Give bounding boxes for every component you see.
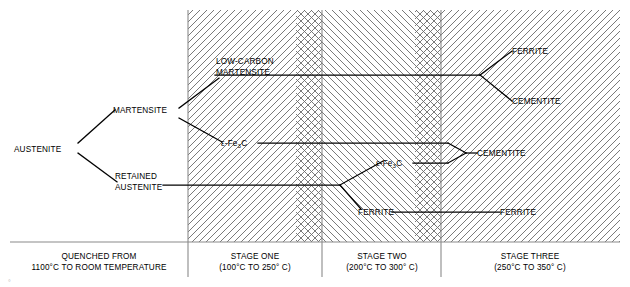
stage-one-two-overlap-hatch — [296, 10, 322, 242]
caption-stage-three-line1: STAGE THREE — [501, 252, 560, 261]
caption-stage-three-line2: (250°C TO 350° C) — [494, 263, 566, 272]
label-low-carbon-martensite-line1: LOW-CARBON — [216, 57, 274, 66]
label-retained-austenite-line1: RETAINED — [115, 172, 157, 181]
epsilon-carbide-prefix-2: ε-Fe — [376, 159, 393, 168]
label-retained-austenite-line2: AUSTENITE — [115, 183, 163, 192]
label-cementite-stage-three-mid: CEMENTITE — [477, 149, 526, 158]
label-ferrite-stage-two: FERRITE — [358, 208, 394, 217]
label-low-carbon-martensite-line2: MARTENSITE — [216, 68, 271, 77]
epsilon-carbide-prefix-1: ε-Fe — [221, 139, 238, 148]
caption-quenched-line1: QUENCHED FROM — [61, 252, 136, 261]
caption-stage-one-line2: (100°C TO 250° C) — [219, 263, 291, 272]
label-austenite: AUSTENITE — [14, 145, 62, 154]
label-cementite-stage-three-upper: CEMENTITE — [512, 97, 561, 106]
stage-two-three-overlap-hatch — [415, 10, 441, 242]
caption-quenched-line2: 1100°C TO ROOM TEMPERATURE — [31, 263, 167, 272]
caption-stage-two-line2: (200°C TO 300° C) — [346, 263, 418, 272]
label-ferrite-stage-three-upper: FERRITE — [512, 47, 548, 56]
stage-one-hatch — [188, 10, 296, 242]
caption-stage-two-line1: STAGE TWO — [357, 252, 407, 261]
hatched-stage-field — [188, 10, 620, 242]
caption-stage-one-line1: STAGE ONE — [231, 252, 280, 261]
connector-austenite-retained-austenite — [78, 153, 117, 182]
svg-text:ε-Fe3C: ε-Fe3C — [221, 139, 247, 149]
tempering-stages-diagram: AUSTENITE MARTENSITE RETAINED AUSTENITE … — [0, 0, 630, 287]
label-epsilon-carbide-stage-one: ε-Fe3C — [221, 139, 247, 149]
connector-austenite-martensite — [78, 110, 115, 143]
stage-caption-group: QUENCHED FROM 1100°C TO ROOM TEMPERATURE… — [31, 252, 566, 272]
epsilon-carbide-carbon-1: C — [241, 139, 247, 148]
label-epsilon-carbide-stage-two: ε-Fe3C — [376, 159, 402, 169]
epsilon-carbide-carbon-2: C — [396, 159, 402, 168]
scan-artifact-mark: ° — [8, 279, 11, 286]
label-martensite: MARTENSITE — [113, 106, 168, 115]
label-ferrite-stage-three-lower: FERRITE — [500, 208, 536, 217]
svg-text:ε-Fe3C: ε-Fe3C — [376, 159, 402, 169]
